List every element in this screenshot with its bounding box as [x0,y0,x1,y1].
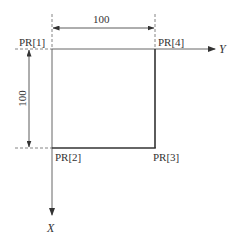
point-label-pr3: PR[3] [153,152,179,163]
point-label-pr4: PR[4] [158,37,184,48]
point-label-pr1: PR[1] [19,37,45,48]
point-label-pr2: PR[2] [55,152,81,163]
square-path-diagram: 100 100 PR[1] PR[4] PR[2] PR[3] Y X [0,0,237,243]
horizontal-dimension-label: 100 [93,14,110,25]
y-axis-label: Y [219,43,226,55]
x-axis-label: X [47,222,54,234]
vertical-dimension-label: 100 [17,90,28,107]
